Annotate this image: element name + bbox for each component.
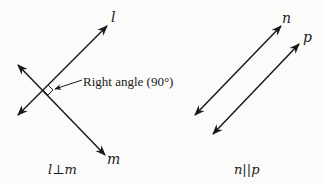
line-l (18, 26, 107, 115)
right-angle-annotation: Right angle (90°) (83, 75, 173, 88)
right-angle-marker (43, 85, 53, 95)
label-n: n (282, 11, 291, 25)
line-n (195, 26, 281, 115)
annotation-arrow (55, 80, 82, 89)
caption-perpendicular: l⊥m (48, 163, 77, 176)
caption-parallel: n||p (234, 163, 259, 176)
diagram-canvas (0, 0, 324, 184)
label-l: l (111, 10, 115, 24)
label-p: p (303, 30, 312, 44)
label-m: m (107, 152, 120, 166)
line-p (213, 44, 299, 134)
